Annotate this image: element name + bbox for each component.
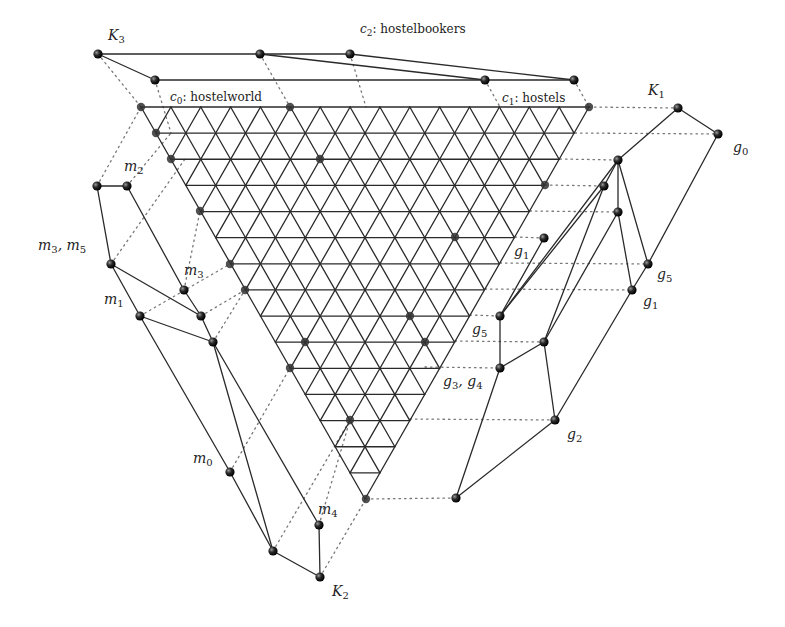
grid-diag-line (141, 107, 365, 499)
lattice-edge (500, 342, 544, 368)
grid-vertex-node (585, 103, 593, 111)
lattice-node (345, 49, 354, 58)
lattice-edge (648, 134, 718, 264)
lattice-edge (618, 212, 632, 290)
label-g0: g0 (733, 140, 748, 157)
lattice-edge (319, 525, 320, 577)
grid-vertex-node (541, 181, 549, 189)
grid-diag-line (201, 107, 395, 447)
lattice-node (135, 311, 144, 320)
lattice-node (315, 572, 324, 581)
grid-vertex-node (301, 338, 309, 346)
grid-vertex-node (167, 155, 175, 163)
grid-vertex-node (137, 103, 145, 111)
lattice-node (225, 467, 234, 476)
lattice-node (539, 337, 548, 346)
label-m3: m3 (184, 263, 204, 280)
grid-diag-line (305, 107, 469, 394)
grid-diag-line (156, 107, 171, 133)
label-g5-inner: g5 (472, 322, 487, 339)
grid-vertex-node (362, 495, 370, 503)
grid-diag-line (559, 107, 574, 133)
label-m3-m5: m3, m5 (38, 238, 86, 255)
label-c0-hostelworld: c0: hostelworld (170, 91, 262, 106)
lattice-edge (98, 54, 155, 80)
lattice-node (196, 311, 205, 320)
lattice-node (495, 363, 504, 372)
lattice-node (627, 285, 636, 294)
label-k3: K3 (108, 28, 125, 45)
lattice-edge (456, 420, 555, 498)
grid-vertex-node (421, 338, 429, 346)
lattice-node (569, 75, 578, 84)
lattice-edge (544, 212, 618, 342)
grid-vertex-node (316, 155, 324, 163)
label-g1-outer: g1 (643, 294, 658, 311)
grid-diag-line (440, 107, 515, 238)
dotted-projection (589, 107, 678, 108)
triangle-lattice-diagram: K3 K1 K2 c2: hostelbookers c0: hostelwor… (0, 0, 785, 627)
dotted-projection (560, 159, 618, 160)
lattice-edge (213, 342, 319, 525)
label-m1: m1 (104, 292, 124, 309)
label-g2: g2 (567, 427, 582, 444)
lattice-node (643, 259, 652, 268)
dotted-projection (111, 159, 185, 264)
label-m0: m0 (193, 451, 213, 468)
label-k2: K2 (332, 584, 349, 601)
lattice-node (255, 49, 264, 58)
grid-diag-line (380, 107, 485, 290)
lattice-node (122, 181, 131, 190)
lattice-node (268, 546, 277, 555)
grid-vertex-node (346, 416, 354, 424)
diagram-canvas (0, 0, 785, 627)
dotted-projection (530, 211, 618, 212)
lattice-node (539, 233, 548, 242)
lattice-edge (544, 342, 555, 420)
lattice-edge (350, 54, 574, 80)
label-m4: m4 (318, 502, 338, 519)
dotted-projection (545, 185, 604, 186)
lattice-edge (230, 472, 273, 551)
grid-vertex-node (196, 207, 204, 215)
lattice-edge (184, 290, 201, 316)
lattice-node (550, 415, 559, 424)
dotted-projection (366, 498, 456, 499)
dotted-projection (485, 80, 500, 107)
dotted-projection (575, 133, 718, 134)
lattice-edge (97, 186, 111, 264)
lattice-node (150, 75, 159, 84)
label-g5-outer: g5 (657, 267, 672, 284)
lattice-node (179, 285, 188, 294)
label-m2: m2 (124, 159, 144, 176)
dotted-projection (213, 290, 245, 342)
grid-diag-line (275, 107, 409, 342)
lattice-node (480, 75, 489, 84)
dotted-projection (574, 80, 589, 107)
label-g3-g4: g3, g4 (443, 374, 483, 391)
lattice-edge (260, 54, 485, 80)
grid-vertex-node (406, 312, 414, 320)
label-c1-hostels: c1: hostels (502, 92, 565, 107)
dotted-projection (201, 290, 245, 316)
grid-vertex-node (226, 260, 234, 268)
grid-diag-line (320, 107, 454, 342)
grid-vertex-node (152, 129, 160, 137)
lattice-edge (678, 108, 718, 134)
grid-diag-line (216, 107, 291, 238)
grid-vertex-node (286, 364, 294, 372)
lattice-node (495, 311, 504, 320)
grid-diag-line (260, 107, 424, 394)
dotted-projection (98, 54, 141, 107)
label-g1-inner: g1 (514, 244, 529, 261)
lattice-edge (555, 290, 632, 420)
lattice-node (673, 103, 682, 112)
lattice-node (613, 207, 622, 216)
label-c2-hostelbookers: c2: hostelbookers (360, 23, 466, 38)
label-k1: K1 (648, 83, 665, 100)
grid-diag-line (365, 107, 589, 499)
lattice-edge (273, 551, 320, 577)
lattice-node (613, 155, 622, 164)
grid-diag-line (335, 107, 529, 447)
dotted-projection (485, 289, 632, 290)
